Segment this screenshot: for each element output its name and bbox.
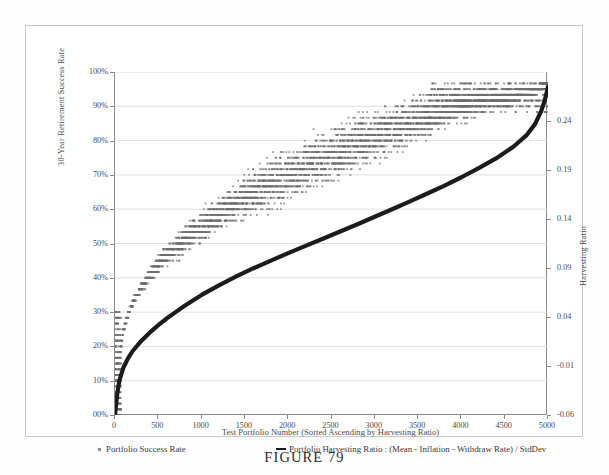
y-axis-left-tick-mark [110, 209, 114, 210]
y-axis-left-tick-mark [110, 244, 114, 245]
y-axis-right-tick-mark [547, 219, 551, 220]
y-axis-right-tick-label: 0.09 [557, 263, 597, 272]
x-axis-tick-mark [157, 415, 158, 419]
y-axis-left-tick-mark [110, 381, 114, 382]
scatter-series-success-rate [115, 83, 548, 415]
y-axis-left-tick-label: 70% [62, 170, 108, 179]
y-axis-left-tick-mark [110, 106, 114, 107]
x-axis-tick-mark [201, 415, 202, 419]
x-axis-tick-mark [460, 415, 461, 419]
y-axis-left-tick-mark [110, 141, 114, 142]
x-axis-tick-mark [547, 415, 548, 419]
y-axis-right-tick-mark [547, 121, 551, 122]
x-axis-tick-mark [504, 415, 505, 419]
y-axis-right-tick-label: 0.19 [557, 165, 597, 174]
y-axis-left-tick-mark [110, 72, 114, 73]
y-axis-right-tick-label: 0.04 [557, 312, 597, 321]
y-axis-left-tick-label: 80% [62, 136, 108, 145]
y-axis-left-title: 30-Year Retirement Success Rate [57, 0, 66, 166]
y-axis-left-tick-mark [110, 312, 114, 313]
y-axis-left-tick-label: 90% [62, 101, 108, 110]
y-axis-right-tick-mark [547, 170, 551, 171]
figure-page: 00%10%20%30%40%50%60%70%80%90%100% -0.06… [0, 0, 609, 475]
figure-caption: FIGURE 79 [0, 449, 609, 466]
y-axis-right-title: Harvesting Ratio [579, 146, 588, 286]
y-axis-left-tick-mark [110, 346, 114, 347]
y-axis-left-tick-label: 10% [62, 376, 108, 385]
y-axis-left-tick-label: 60% [62, 204, 108, 213]
y-axis-right-tick-mark [547, 317, 551, 318]
plot-canvas [115, 72, 548, 415]
x-axis-tick-mark [374, 415, 375, 419]
x-axis-tick-mark [114, 415, 115, 419]
y-axis-right-tick-label: 0.14 [557, 214, 597, 223]
x-axis-tick-mark [417, 415, 418, 419]
y-axis-right-tick-mark [547, 268, 551, 269]
y-axis-left-tick-mark [110, 278, 114, 279]
y-axis-right-tick-label: 0.24 [557, 116, 597, 125]
y-axis-left-tick-label: 40% [62, 273, 108, 282]
plot-area [114, 72, 547, 415]
x-axis-tick-mark [287, 415, 288, 419]
y-axis-left-tick-label: 100% [62, 67, 108, 76]
y-axis-left-tick-label: 20% [62, 341, 108, 350]
y-axis-right-tick-label: -0.01 [557, 361, 597, 370]
line-series-harvesting-ratio [115, 87, 548, 415]
x-axis-tick-mark [331, 415, 332, 419]
y-axis-left-tick-label: 50% [62, 239, 108, 248]
y-axis-left-tick-mark [110, 175, 114, 176]
x-axis-title: Test Portfolio Number (Sorted Ascending … [114, 427, 547, 437]
y-axis-right-tick-label: -0.06 [557, 410, 597, 419]
x-axis-tick-mark [244, 415, 245, 419]
chart-frame: 00%10%20%30%40%50%60%70%80%90%100% -0.06… [25, 25, 583, 437]
y-axis-left-tick-label: 00% [62, 410, 108, 419]
y-axis-right-tick-mark [547, 366, 551, 367]
y-axis-left-tick-label: 30% [62, 307, 108, 316]
